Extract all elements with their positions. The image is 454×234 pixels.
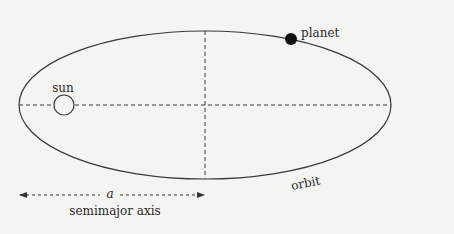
orbit-label: orbit [290,174,322,193]
sun-label: sun [52,81,74,95]
orbit-diagram: sun planet orbit a semimajor axis [0,0,454,234]
planet-label: planet [301,26,340,40]
semimajor-caption: semimajor axis [69,204,160,218]
planet-icon [285,33,297,45]
sun-icon [54,95,74,115]
semimajor-symbol: a [106,187,113,201]
